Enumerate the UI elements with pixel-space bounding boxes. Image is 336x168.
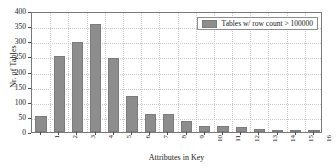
x-tick-mark <box>295 132 296 135</box>
x-tick-label: 12 <box>254 135 261 155</box>
x-axis-title: Attributes in Key <box>31 153 322 162</box>
x-tick-mark <box>167 132 168 135</box>
x-tick-mark <box>204 132 205 135</box>
x-tick-label: 11 <box>235 135 242 155</box>
x-tick-mark <box>58 132 59 135</box>
x-tick-mark <box>149 132 150 135</box>
x-tick-mark <box>186 132 187 135</box>
x-tick-label: 10 <box>217 135 224 155</box>
x-tick-label: 1 <box>54 135 61 155</box>
x-tick-label: 15 <box>308 135 315 155</box>
x-tick-mark <box>76 132 77 135</box>
x-tick-mark <box>313 132 314 135</box>
x-tick-mark <box>95 132 96 135</box>
x-tick-label: 16 <box>326 135 333 155</box>
x-tick-label: 6 <box>145 135 152 155</box>
x-tick-mark <box>40 132 41 135</box>
x-tick-label: 2 <box>72 135 79 155</box>
x-tick-label: 5 <box>126 135 133 155</box>
x-tick-mark <box>222 132 223 135</box>
x-tick-mark <box>131 132 132 135</box>
x-tick-mark <box>258 132 259 135</box>
x-tick-mark <box>113 132 114 135</box>
x-tick-mark <box>240 132 241 135</box>
x-tick-label: 3 <box>90 135 97 155</box>
x-tick-mark <box>277 132 278 135</box>
x-tick-label: 7 <box>163 135 170 155</box>
x-tick-label: 9 <box>199 135 206 155</box>
x-tick-label: 4 <box>108 135 115 155</box>
x-tick-label: 13 <box>272 135 279 155</box>
x-axis-ticks: 12345678910111213141516 <box>0 0 336 168</box>
bar-chart-figure: Nr. of Tables 050100150200250300350400 T… <box>0 0 336 168</box>
x-tick-label: 14 <box>290 135 297 155</box>
x-tick-label: 8 <box>181 135 188 155</box>
